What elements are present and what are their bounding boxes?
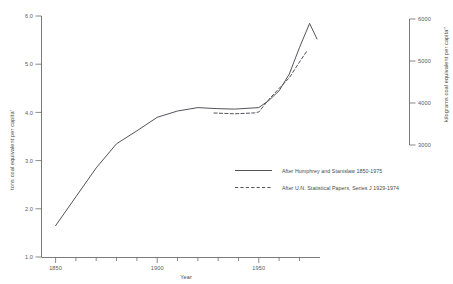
left-tick-label-6: 6.0 [25,13,33,19]
right-axis-title: kilograms coal equivalent per capita'' [443,27,449,122]
right-tick-label-3000: 3000 [418,142,431,148]
series-line-humphrey-stanislaw [56,23,317,225]
left-tick-label-1: 1.0 [25,254,33,260]
left-axis-title: tons coal equivalent per capita' [9,110,15,190]
x-tick-label-1900: 1900 [151,265,164,271]
right-tick-label-5000: 5000 [418,58,431,64]
chart-svg: 6.0 5.0 4.0 3.0 2.0 1.0 tons coal equiva… [0,0,453,284]
left-tick-label-2: 2.0 [25,206,33,212]
series-line-un-statistical-papers [214,50,308,114]
left-tick-label-3: 3.0 [25,158,33,164]
left-tick-label-4: 4.0 [25,110,33,116]
chart-figure: 6.0 5.0 4.0 3.0 2.0 1.0 tons coal equiva… [0,0,453,284]
left-tick-label-5: 5.0 [25,61,33,67]
right-axis: 6000 5000 4000 3000 kilograms coal equiv… [410,16,450,148]
series-group [56,23,317,225]
x-tick-label-1950: 1950 [252,265,265,271]
legend-label-un-statistical-papers: After U.N. Statistical Papers, Series J … [282,185,399,191]
right-tick-label-6000: 6000 [418,16,431,22]
legend-label-humphrey-stanislaw: After Humphrey and Stanislaw 1850-1975 [282,168,382,174]
left-axis: 6.0 5.0 4.0 3.0 2.0 1.0 tons coal equiva… [9,13,42,260]
legend: After Humphrey and Stanislaw 1850-1975 A… [235,168,399,191]
x-axis-title: Year [180,274,192,280]
bottom-axis: 1850 1900 1950 Year [42,258,321,281]
right-tick-label-4000: 4000 [418,100,431,106]
x-tick-label-1850: 1850 [49,265,62,271]
